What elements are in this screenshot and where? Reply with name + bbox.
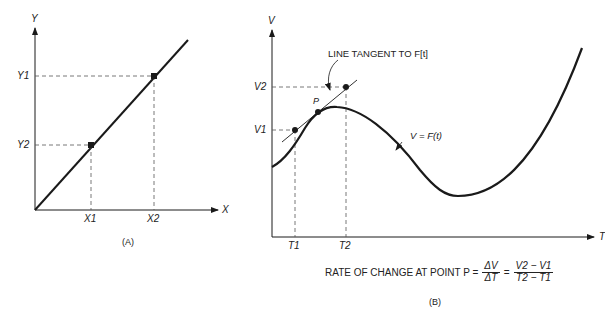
formula-prefix: RATE OF CHANGE AT POINT P = [325, 267, 478, 278]
panel-a-graph [35, 28, 218, 210]
t-axis-label: T [599, 232, 605, 242]
fraction-difference: V2 − V1 T2 − T1 [514, 261, 554, 283]
point-x1-y2 [88, 142, 94, 148]
v-tick-v2: V2 [254, 82, 266, 92]
x-tick-x1: X1 [84, 214, 96, 224]
point-x2-y1 [151, 73, 157, 79]
v-tick-v1: V1 [254, 125, 266, 135]
t-tick-t1: T1 [288, 241, 300, 251]
y-tick-y2: Y2 [17, 140, 29, 150]
panel-a-caption: (A) [122, 238, 134, 247]
x-axis-label: X [222, 205, 229, 215]
fraction-delta: ΔV ΔT [482, 261, 499, 283]
point-p-label: P [313, 97, 319, 106]
function-curve [272, 48, 582, 196]
point-t1-v1 [292, 127, 298, 133]
v-axis-label: V [268, 16, 275, 26]
panel-b-caption: (B) [429, 298, 441, 307]
rate-of-change-formula: RATE OF CHANGE AT POINT P = ΔV ΔT = V2 −… [325, 261, 553, 283]
fraction-delta-denominator: ΔT [483, 273, 500, 284]
t-tick-t2: T2 [339, 241, 351, 251]
y-axis-label: Y [31, 14, 38, 24]
tangent-annotation: LINE TANGENT TO F[t] [328, 49, 428, 59]
guide-lines-b [272, 87, 346, 237]
point-t2-v2 [343, 84, 349, 90]
x-tick-x2: X2 [147, 214, 159, 224]
linear-function-line [35, 40, 188, 210]
tangent-annotation-arrow [328, 60, 338, 90]
fraction-difference-numerator: V2 − V1 [514, 261, 554, 273]
fraction-difference-denominator: T2 − T1 [514, 273, 553, 284]
fraction-delta-numerator: ΔV [482, 261, 499, 273]
curve-annotation: V = F(t) [410, 131, 442, 141]
y-tick-y1: Y1 [17, 71, 29, 81]
point-p [315, 109, 321, 115]
formula-equals: = [504, 267, 510, 278]
